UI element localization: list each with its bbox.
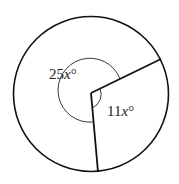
circle-diagram [0, 0, 179, 184]
minor-angle-degree: ° [128, 103, 134, 119]
major-angle-coefficient: 25 [49, 66, 64, 82]
major-angle-label: 25x° [49, 66, 77, 83]
minor-angle-coefficient: 11 [107, 103, 121, 119]
radius-upper-right [91, 59, 161, 93]
minor-angle-label: 11x° [107, 103, 134, 120]
major-angle-variable: x [64, 66, 71, 82]
major-angle-degree: ° [71, 66, 77, 82]
